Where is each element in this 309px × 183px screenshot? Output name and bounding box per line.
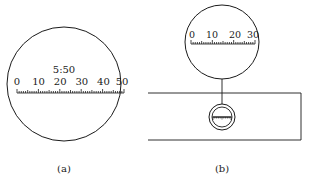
scale-label: 30 — [247, 29, 259, 40]
diagram-canvas: 5:50 0 10 20 30 40 50 0 10 20 30 — [0, 0, 309, 183]
scale-labels-b: 0 10 20 30 — [189, 29, 259, 40]
scale-label: 20 — [54, 76, 67, 87]
ruler-b — [191, 40, 255, 44]
caption-b: (b) — [215, 163, 229, 174]
magnified-view-circle-b — [185, 5, 259, 79]
ratio-label: 5:50 — [53, 64, 75, 75]
ruler-a — [17, 89, 124, 93]
scale-labels-a: 0 10 20 30 40 50 — [14, 76, 129, 87]
figure-a: 5:50 0 10 20 30 40 50 — [7, 27, 128, 141]
scale-label: 50 — [116, 76, 129, 87]
scale-label: 40 — [97, 76, 110, 87]
scale-label: 30 — [75, 76, 88, 87]
scale-label: 10 — [32, 76, 45, 87]
caption-a: (a) — [57, 163, 71, 174]
scale-label: 0 — [14, 76, 20, 87]
loupe-icon — [209, 104, 235, 130]
scale-label: 0 — [189, 29, 195, 40]
scale-label: 10 — [206, 29, 218, 40]
scale-label: 20 — [229, 29, 241, 40]
figure-b: 0 10 20 30 — [148, 5, 301, 140]
